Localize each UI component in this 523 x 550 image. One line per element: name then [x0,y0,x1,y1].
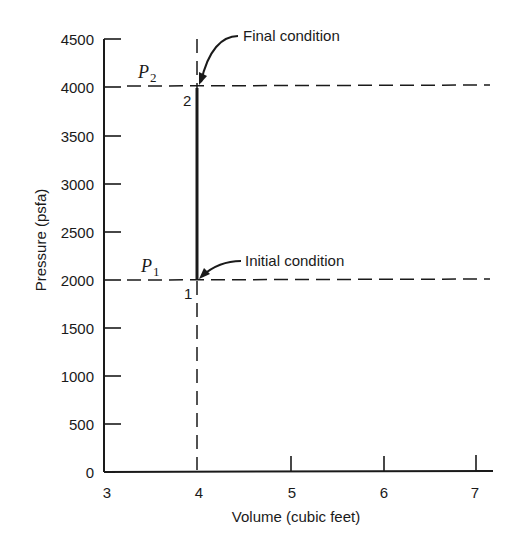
y-tick-1500: 1500 [61,320,94,337]
y-tick-4000: 4000 [61,79,94,96]
x-tick-3: 3 [103,484,111,501]
p1-letter: P [140,256,152,276]
p2-reference-line [127,85,490,86]
final-condition-arrow-icon [201,36,238,82]
x-tick-labels: 3 4 5 6 7 [103,484,479,501]
x-axis-title: Volume (cubic feet) [232,508,360,525]
y-tick-4500: 4500 [61,31,94,48]
y-tick-1000: 1000 [61,368,94,385]
p2-letter: P [137,62,149,82]
y-tick-0: 0 [86,464,94,481]
initial-condition-arrowhead-icon [199,268,210,279]
p1-subscript: 1 [153,264,160,279]
x-tick-7: 7 [471,484,479,501]
p2-label: P 2 [137,62,157,85]
x-axis [104,471,493,472]
p1-label: P 1 [140,256,160,279]
x-tick-6: 6 [380,484,388,501]
p1-reference-line [127,279,490,280]
point-1-label: 1 [184,285,192,302]
pressure-volume-chart: 4500 4000 3500 3000 2500 2000 1500 1000 … [0,0,523,550]
y-tick-500: 500 [69,416,94,433]
x-tick-4: 4 [195,484,203,501]
final-condition-label: Final condition [243,27,340,44]
y-tick-3500: 3500 [61,128,94,145]
y-ticks [104,39,121,424]
y-tick-2000: 2000 [61,272,94,289]
p2-subscript: 2 [150,70,157,85]
y-tick-2500: 2500 [61,224,94,241]
y-axis-title: Pressure (psfa) [32,189,49,292]
y-tick-3000: 3000 [61,176,94,193]
x-tick-5: 5 [288,484,296,501]
initial-condition-label: Initial condition [245,252,344,269]
x-ticks [291,455,476,472]
y-tick-labels: 4500 4000 3500 3000 2500 2000 1500 1000 … [61,31,94,481]
point-2-label: 2 [183,92,191,109]
